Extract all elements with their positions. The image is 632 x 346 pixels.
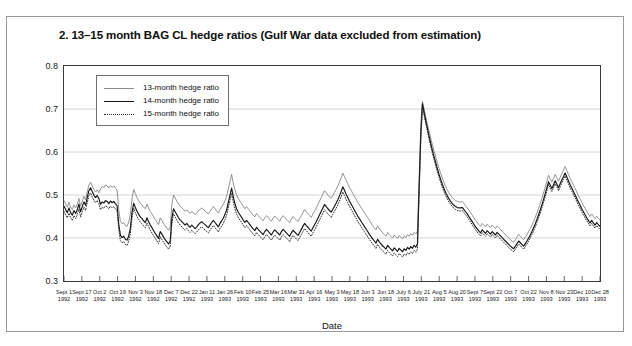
plot-area-wrapper: 0.30.40.50.60.70.8 13-month hedge ratio … [63,65,601,282]
x-tick-label: Mar 311993 [288,289,305,302]
legend-item-14-month: 14-month hedge ratio [104,94,219,107]
chart-legend: 13-month hedge ratio 14-month hedge rati… [96,75,229,126]
x-tick-label: July 61993 [396,289,411,302]
legend-swatch-15-month [104,110,134,118]
x-tick-label: Aug 201993 [448,289,466,302]
x-tick-label: Aug 51993 [432,289,447,302]
legend-label-15-month: 15-month hedge ratio [143,109,219,118]
x-tick-label: July 211993 [412,289,430,302]
x-tick-label: Nov 31992 [128,289,143,302]
x-tick-label: Jun 181993 [377,289,394,302]
x-tick-label: Sept 221993 [483,289,502,302]
x-tick-label: Sept 71993 [467,289,483,302]
x-tick-label: Sept 11992 [56,289,72,302]
x-tick-label: Jan 111993 [199,289,215,302]
x-tick-label: May 31993 [324,289,339,302]
legend-swatch-13-month [104,84,134,92]
legend-label-14-month: 14-month hedge ratio [143,96,219,105]
legend-item-15-month: 15-month hedge ratio [104,107,219,120]
x-tick-label: Jan 261993 [216,289,233,302]
y-tick-label: 0.4 [45,233,58,243]
y-tick-label: 0.7 [45,104,58,114]
x-tick-label: Nov 231993 [555,289,573,302]
x-tick-label: Oct 71993 [504,289,517,302]
x-axis-tick-labels: Sept 11992Sept 171992Oct 21992Oct 191992… [63,289,601,313]
legend-item-13-month: 13-month hedge ratio [104,81,219,94]
x-tick-label: Oct 221993 [520,289,536,302]
y-tick-label: 0.6 [45,147,58,157]
x-tick-label: Dec 101993 [573,289,591,302]
legend-swatch-14-month [104,97,134,105]
x-tick-label: Oct 21992 [93,289,106,302]
y-tick-label: 0.8 [45,61,58,71]
x-tick-label: Dec 71992 [164,289,179,302]
x-tick-label: Feb 101993 [234,289,251,302]
x-tick-label: Jun 31993 [361,289,375,302]
x-axis-title: Date [322,320,342,331]
figure-panel: 2. 13–15 month BAG CL hedge ratios (Gulf… [6,16,624,332]
x-tick-label: Apr 161993 [306,289,322,302]
x-tick-label: Dec 221992 [180,289,198,302]
x-tick-label: Sept 171992 [72,289,91,302]
x-tick-label: Oct 191992 [109,289,125,302]
x-tick-label: Mar 161993 [270,289,287,302]
y-tick-label: 0.5 [45,190,58,200]
x-tick-label: May 181993 [341,289,359,302]
x-tick-label: Dec 281993 [591,289,609,302]
chart-title: 2. 13–15 month BAG CL hedge ratios (Gulf… [59,29,481,41]
x-tick-label: Nov 81993 [539,289,554,302]
x-tick-label: Feb 251993 [252,289,269,302]
legend-label-13-month: 13-month hedge ratio [143,83,219,92]
x-tick-label: Nov 181992 [144,289,162,302]
y-tick-label: 0.3 [45,276,58,286]
